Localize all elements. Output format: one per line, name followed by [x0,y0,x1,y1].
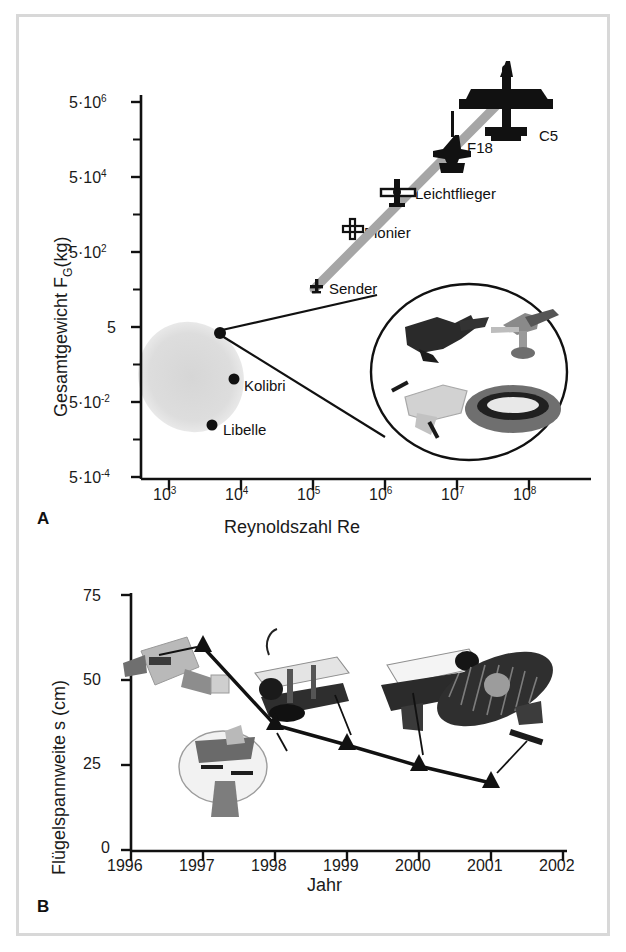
panel-a-scatter-chart: A Gesamtgewicht FG(kg) Reynoldszahl Re 5… [19,17,607,557]
panel-b-axes [131,593,567,851]
panel-a-inset-leader-lines [222,295,385,437]
mav-photo-1998-icon [179,725,267,817]
mav-photo-1997-icon [123,637,229,695]
panel-a-dot-libelle [207,420,218,431]
mav-photo-2001-icon [426,636,564,745]
mav-photo-1999-icon [255,629,349,722]
panel-a-plot-svg [19,17,607,557]
panel-a-x-ticks [169,479,529,490]
panel-a-dot-kolibri [229,374,240,385]
panel-a-marker-leichtflieger [381,179,415,207]
panel-b-y-ticks [121,595,131,850]
panel-b-line-chart: B Flügelspannweite s (cm) Jahr 75 50 25 … [19,545,607,933]
panel-b-plot-svg [19,545,607,933]
panel-b-x-ticks [131,851,563,861]
panel-b-marker-2001 [482,771,500,788]
disc-mav-photo-icon [465,385,561,433]
panel-b-marker-1997 [194,635,212,652]
panel-a-inset-circle [371,284,567,460]
figure-frame: A Gesamtgewicht FG(kg) Reynoldszahl Re 5… [16,14,610,936]
panel-a-marker-pionier [343,219,363,239]
